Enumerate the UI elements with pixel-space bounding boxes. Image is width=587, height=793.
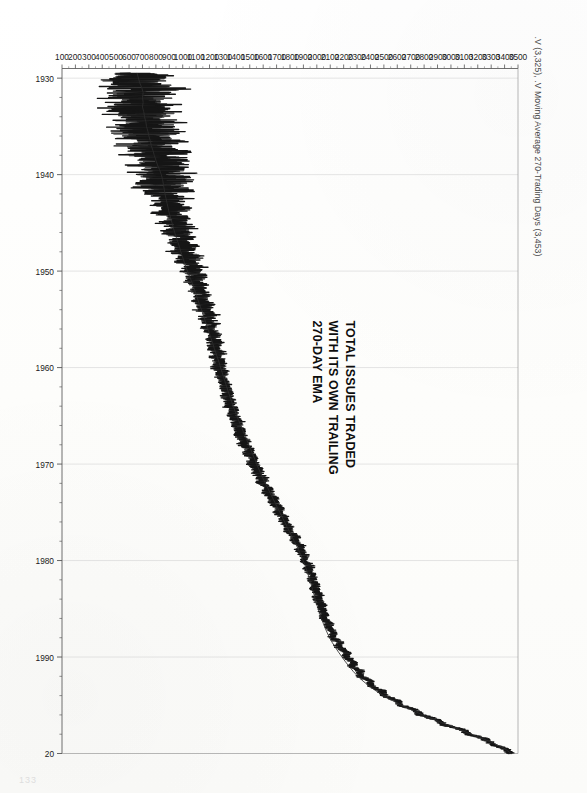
plot-frame (62, 68, 518, 753)
chart-title-line-3: 270-DAY EMA (308, 320, 325, 474)
time-tick-label: 1960 (35, 362, 53, 372)
chart-title-line-2: WITH ITS OWN TRAILING (325, 320, 342, 474)
page-number: 133 (19, 775, 37, 785)
scanned-page: .V (3,325), .V Moving Average 270-Tradin… (0, 0, 587, 793)
time-tick-label: 1970 (35, 459, 53, 469)
chart-wrapper: .V (3,325), .V Moving Average 270-Tradin… (44, 30, 544, 763)
chart-legend-text: .V (3,325), .V Moving Average 270-Tradin… (533, 36, 543, 256)
value-tick-label: 300 (81, 51, 95, 61)
axis-ticks (57, 64, 518, 753)
value-tick-label: 600 (122, 51, 136, 61)
value-tick-label: 500 (108, 51, 122, 61)
chart-title-line-1: TOTAL ISSUES TRADED (341, 320, 358, 474)
time-tick-label: 1980 (35, 555, 53, 565)
value-tick-label: 3500 (508, 51, 526, 61)
chart-plot-area (44, 30, 544, 763)
value-tick-label: 700 (135, 51, 149, 61)
value-tick-label: 200 (68, 51, 82, 61)
value-tick-label: 800 (148, 51, 162, 61)
time-tick-label: 20 (44, 748, 53, 758)
rotated-chart-canvas: .V (3,325), .V Moving Average 270-Tradin… (44, 30, 544, 763)
chart-title-block: TOTAL ISSUES TRADED WITH ITS OWN TRAILIN… (308, 320, 358, 474)
time-tick-label: 1990 (35, 652, 53, 662)
time-tick-label: 1940 (35, 169, 53, 179)
value-tick-label: 100 (55, 51, 69, 61)
value-tick-label: 400 (95, 51, 109, 61)
time-tick-label: 1950 (35, 266, 53, 276)
time-tick-label: 1930 (35, 73, 53, 83)
